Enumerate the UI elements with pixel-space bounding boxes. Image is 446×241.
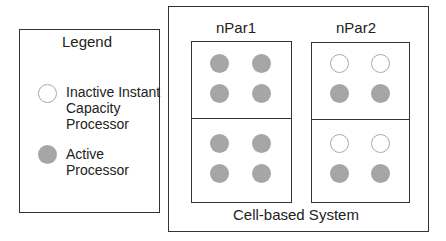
legend-inactive-line1: Inactive Instant	[66, 84, 160, 100]
npar2-partition	[311, 42, 410, 203]
processor-icon	[210, 134, 229, 153]
processor-icon	[210, 54, 229, 73]
npar1-partition	[191, 41, 292, 203]
processor-icon	[252, 134, 271, 153]
npar1-cell-divider	[191, 118, 292, 119]
processor-icon	[371, 54, 390, 73]
legend-inactive-line2: Capacity	[66, 100, 120, 116]
npar2-label: nPar2	[336, 20, 376, 36]
legend-active-line1: Active	[66, 146, 104, 162]
processor-icon	[371, 134, 390, 153]
active-processor-icon	[38, 145, 57, 164]
processor-icon	[252, 54, 271, 73]
inactive-processor-icon	[38, 84, 57, 103]
system-label: Cell-based System	[233, 207, 359, 223]
npar2-cell-divider	[311, 119, 410, 120]
processor-icon	[210, 84, 229, 103]
npar1-label: nPar1	[216, 20, 256, 36]
legend-active-line2: Processor	[66, 162, 129, 178]
processor-icon	[330, 54, 349, 73]
processor-icon	[330, 84, 349, 103]
processor-icon	[371, 164, 390, 183]
processor-icon	[371, 84, 390, 103]
processor-icon	[252, 84, 271, 103]
processor-icon	[210, 164, 229, 183]
processor-icon	[330, 164, 349, 183]
legend-inactive-line3: Processor	[66, 116, 129, 132]
legend-title: Legend	[62, 34, 112, 50]
processor-icon	[252, 164, 271, 183]
processor-icon	[330, 134, 349, 153]
